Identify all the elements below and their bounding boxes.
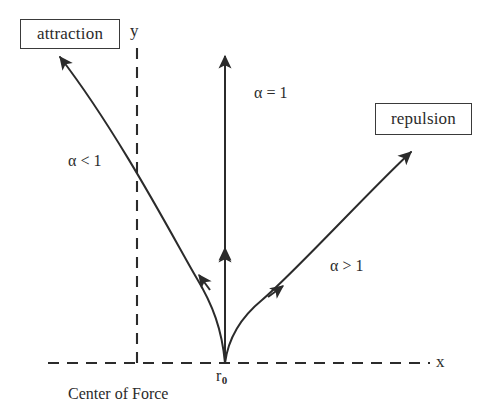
repulsion-label-text: repulsion bbox=[391, 109, 456, 129]
alpha-equals-one-label: α = 1 bbox=[254, 85, 287, 101]
attraction-label-text: attraction bbox=[37, 24, 103, 44]
attraction-label-box: attraction bbox=[20, 19, 120, 49]
curve-alpha-greater-than-one bbox=[225, 152, 411, 363]
origin-r-zero-label: r0 bbox=[216, 368, 227, 384]
mid-arrow-left-curve bbox=[199, 275, 210, 290]
origin-r-subscript: 0 bbox=[222, 374, 228, 386]
origin-r-symbol: r bbox=[216, 367, 221, 384]
repulsion-label-box: repulsion bbox=[375, 103, 472, 135]
curve-alpha-less-than-one bbox=[60, 57, 225, 363]
center-of-force-caption: Center of Force bbox=[68, 386, 168, 402]
force-law-diagram: attraction repulsion α < 1 α = 1 α > 1 y… bbox=[0, 0, 497, 418]
y-axis-label: y bbox=[130, 22, 139, 39]
alpha-greater-than-one-label: α > 1 bbox=[330, 258, 363, 274]
diagram-canvas bbox=[0, 0, 497, 418]
x-axis-label: x bbox=[436, 353, 445, 370]
alpha-less-than-one-label: α < 1 bbox=[68, 153, 101, 169]
